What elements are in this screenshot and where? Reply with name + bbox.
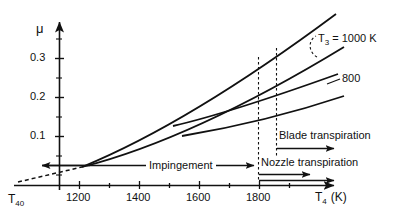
annotation-nozzle-transpiration: Nozzle transpiration [261, 157, 358, 168]
x-tick-label-1200: 1200 [66, 192, 90, 203]
x-tick-label-1800: 1800 [246, 192, 270, 203]
series-label-sub: 3 [325, 38, 329, 47]
y-tick-label-0: 0.3 [30, 52, 45, 63]
series-label-main: T [318, 32, 325, 44]
series-line-800 [173, 74, 338, 126]
y-axis-label: μ [36, 22, 44, 35]
label-800-leader [327, 79, 340, 84]
series-label-800: 800 [342, 73, 360, 84]
chart-figure: μ 0.3 0.2 0.1 1200 1400 1600 1800 T4(K) … [0, 0, 393, 220]
y-tick-label-2: 0.1 [30, 130, 45, 141]
x-tick-label-1600: 1600 [186, 192, 210, 203]
x-tick-label-1400: 1400 [126, 192, 150, 203]
series-label-rest: = 1000 K [332, 32, 376, 44]
t40-dashed-line [18, 167, 82, 182]
origin-label-sub: 40 [15, 199, 24, 208]
x-axis-label: T4(K) [315, 191, 347, 206]
x-axis-label-sub: 4 [322, 197, 326, 206]
x-axis-label-unit: (K) [331, 190, 347, 204]
annotation-blade-transpiration: Blade transpiration [279, 130, 371, 141]
t3-leader-line [310, 36, 317, 57]
series-line-1000k [82, 14, 336, 167]
annotation-impingement: Impingement [146, 160, 216, 171]
series-label-1000k: T3= 1000 K [318, 33, 377, 47]
y-tick-label-1: 0.2 [30, 91, 45, 102]
origin-label-t40: T40 [8, 193, 24, 208]
